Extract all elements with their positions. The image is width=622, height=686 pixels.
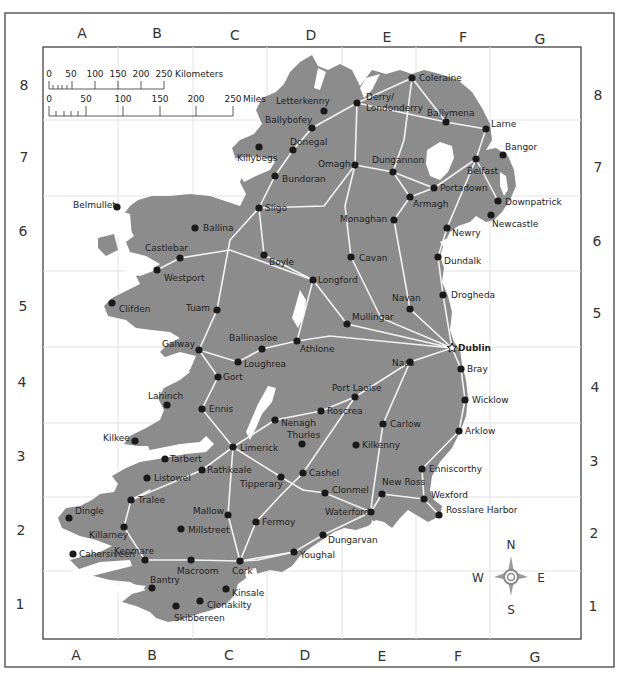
row-labels-right: 8 7 6 5 4 3 2 1 bbox=[589, 87, 603, 614]
svg-text:50: 50 bbox=[65, 69, 77, 79]
city-label-rathkeale: Rathkeale bbox=[207, 465, 252, 475]
city-label-navan: Navan bbox=[392, 293, 421, 303]
svg-text:F: F bbox=[454, 648, 462, 664]
city-label-dungannon: Dungannon bbox=[372, 155, 424, 165]
svg-text:5: 5 bbox=[593, 305, 602, 321]
svg-text:4: 4 bbox=[18, 374, 27, 390]
svg-text:N: N bbox=[507, 538, 516, 552]
city-label-longford: Longford bbox=[318, 275, 358, 285]
city-dot-letterkenny bbox=[320, 107, 327, 114]
city-label-newry: Newry bbox=[452, 228, 481, 238]
city-dot-ballybofey bbox=[308, 124, 315, 131]
city-dot-belfast bbox=[472, 155, 479, 162]
city-label-fermoy: Fermoy bbox=[262, 517, 296, 527]
city-label-arklow: Arklow bbox=[465, 426, 495, 436]
city-dot-clonmel bbox=[321, 489, 328, 496]
city-dot-ennis bbox=[198, 405, 205, 412]
city-dot-cashel bbox=[299, 469, 306, 476]
city-label-wexford: Wexford bbox=[431, 490, 468, 500]
svg-text:Miles: Miles bbox=[243, 94, 266, 104]
city-label-ballinasloe: Ballinasloe bbox=[229, 333, 278, 343]
city-dot-lahinch bbox=[163, 401, 170, 408]
svg-text:G: G bbox=[535, 31, 546, 47]
city-dot-thurles bbox=[298, 440, 305, 447]
city-label-gort: Gort bbox=[223, 372, 243, 382]
city-dot-nenagh bbox=[271, 416, 278, 423]
city-dot-monaghan bbox=[390, 216, 397, 223]
city-label-skibbereen: Skibbereen bbox=[174, 613, 225, 623]
city-dot-tuam bbox=[213, 306, 220, 313]
city-dot-carlow bbox=[379, 420, 386, 427]
city-dot-enniscorthy bbox=[418, 465, 425, 472]
city-label-naas: Naas bbox=[392, 358, 415, 368]
city-dot-bray bbox=[457, 365, 464, 372]
svg-text:A: A bbox=[71, 647, 81, 663]
city-dot-donegal bbox=[289, 146, 296, 153]
city-label-tarbert: Tarbert bbox=[169, 454, 202, 464]
svg-text:0: 0 bbox=[46, 94, 52, 104]
city-label-belfast: Belfast bbox=[467, 166, 499, 176]
city-dot-clifden bbox=[108, 299, 115, 306]
city-dot-cahersiveen bbox=[69, 550, 76, 557]
city-label-waterford: Waterford bbox=[325, 507, 370, 517]
city-dot-clonakilty bbox=[196, 597, 203, 604]
svg-text:D: D bbox=[300, 647, 311, 663]
svg-text:D: D bbox=[306, 27, 317, 43]
city-label-clonakilty: Clonakilty bbox=[207, 600, 252, 610]
city-label-ballina: Ballina bbox=[203, 223, 233, 233]
city-label-dundalk: Dundalk bbox=[444, 256, 482, 266]
city-label-limerick: Limerick bbox=[240, 443, 279, 453]
svg-text:B: B bbox=[147, 647, 157, 663]
svg-text:250: 250 bbox=[155, 69, 172, 79]
city-label-killybegs: Killybegs bbox=[237, 153, 278, 163]
svg-text:50: 50 bbox=[80, 94, 92, 104]
city-label-clonmel: Clonmel bbox=[332, 485, 369, 495]
city-dot-larne bbox=[482, 125, 489, 132]
city-label-nenagh: Nenagh bbox=[281, 418, 316, 428]
city-dot-downpatrick bbox=[494, 197, 501, 204]
city-dot-mullingar bbox=[343, 320, 350, 327]
city-label-boyle: Boyle bbox=[269, 257, 295, 267]
city-label-dingle: Dingle bbox=[75, 506, 104, 516]
svg-text:100: 100 bbox=[86, 69, 103, 79]
city-label-rosslare-harbor: Rosslare Harbor bbox=[446, 505, 518, 515]
city-dot-kinsale bbox=[222, 585, 229, 592]
city-dot-derry bbox=[353, 99, 360, 106]
city-dot-bantry bbox=[148, 584, 155, 591]
city-dot-wicklow bbox=[461, 396, 468, 403]
svg-text:W: W bbox=[472, 571, 484, 585]
city-dot-rathkeale bbox=[198, 466, 205, 473]
svg-text:1: 1 bbox=[589, 598, 598, 614]
city-dot-dundalk bbox=[434, 253, 441, 260]
city-label-ballymena: Ballymena bbox=[427, 108, 475, 118]
svg-text:150: 150 bbox=[151, 94, 168, 104]
city-dot-port-laoise bbox=[351, 393, 358, 400]
svg-text:7: 7 bbox=[594, 159, 603, 175]
city-dot-roscrea bbox=[317, 407, 324, 414]
city-label-armagh: Armagh bbox=[413, 199, 448, 209]
city-label-westport: Westport bbox=[164, 273, 205, 283]
city-label-killarney: Killarney bbox=[89, 530, 129, 540]
city-label-downpatrick: Downpatrick bbox=[505, 197, 562, 207]
city-label-newcastle: Newcastle bbox=[492, 219, 539, 229]
svg-text:200: 200 bbox=[187, 94, 204, 104]
city-label-belmullet: Belmullet bbox=[73, 200, 116, 210]
city-dot-newcastle bbox=[487, 211, 494, 218]
svg-text:2: 2 bbox=[590, 525, 599, 541]
city-label-londonderry: Londonderry bbox=[366, 103, 423, 113]
svg-text:7: 7 bbox=[20, 149, 29, 165]
city-label-cashel: Cashel bbox=[309, 468, 339, 478]
city-dot-gort bbox=[214, 373, 221, 380]
city-label-loughrea: Loughrea bbox=[244, 359, 286, 369]
city-label-kilkee: Kilkee bbox=[103, 433, 130, 443]
city-dot-westport bbox=[153, 266, 160, 273]
svg-text:S: S bbox=[507, 603, 515, 617]
city-label-port-laoise: Port Laoise bbox=[332, 383, 382, 393]
city-label-kilkenny: Kilkenny bbox=[362, 440, 401, 450]
city-dot-wexford bbox=[420, 495, 427, 502]
city-dot-tralee bbox=[127, 496, 134, 503]
row-labels-left: 8 7 6 5 4 3 2 1 bbox=[16, 77, 29, 612]
city-dot-skibbereen bbox=[172, 602, 179, 609]
city-label-millstreet: Millstreet bbox=[188, 525, 230, 535]
svg-text:C: C bbox=[224, 647, 234, 663]
